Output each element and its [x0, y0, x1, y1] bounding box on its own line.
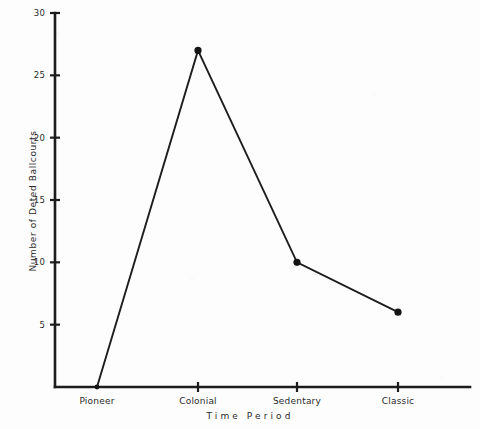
x-tick-label: Classic [353, 397, 443, 406]
data-point-marker [293, 259, 300, 266]
y-tick-label: 30 [23, 9, 45, 18]
y-axis-title: Number of Deted Ballcourts [28, 106, 38, 296]
y-tick-label: 25 [23, 71, 45, 80]
data-point-marker [394, 309, 401, 316]
data-point-marker [95, 385, 100, 390]
y-tick-label: 5 [23, 321, 45, 330]
data-point-marker [194, 47, 201, 54]
x-tick-label: Colonial [153, 397, 243, 406]
x-axis-title: Time Period [100, 411, 400, 421]
x-tick-label: Sedentary [252, 397, 342, 406]
data-point-markers [95, 47, 402, 390]
data-series-line [97, 50, 398, 387]
chart-figure: 51015202530 PioneerColonialSedentaryClas… [0, 0, 480, 429]
chart-plot-area [0, 0, 480, 429]
x-tick-label: Pioneer [52, 397, 142, 406]
